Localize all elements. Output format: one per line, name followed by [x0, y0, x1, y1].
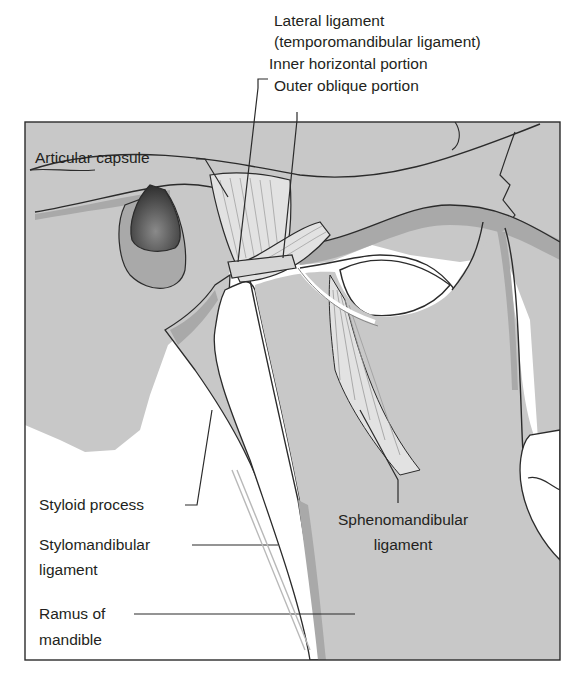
- label-stylomandibular-ligament: Stylomandibular: [39, 535, 150, 555]
- label-sphenomandibular-ligament-line2: ligament: [313, 535, 493, 555]
- label-sphenomandibular-ligament: Sphenomandibular: [313, 510, 493, 530]
- label-inner-horizontal-portion: Inner horizontal portion: [269, 54, 428, 74]
- label-styloid-process: Styloid process: [39, 495, 144, 515]
- label-lateral-ligament: Lateral ligament: [274, 11, 384, 31]
- label-lateral-ligament-subtitle: (temporomandibular ligament): [274, 32, 481, 52]
- label-ramus-of-mandible-line2: mandible: [39, 630, 102, 650]
- label-stylomandibular-ligament-line2: ligament: [39, 560, 98, 580]
- label-articular-capsule: Articular capsule: [35, 148, 150, 168]
- label-outer-oblique-portion: Outer oblique portion: [274, 76, 419, 96]
- label-ramus-of-mandible: Ramus of: [39, 604, 105, 624]
